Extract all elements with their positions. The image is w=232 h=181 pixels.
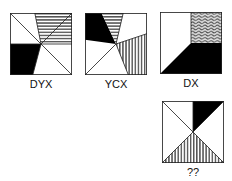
figure-unknown [162,101,224,163]
figure-ycx [85,13,147,75]
figure-label-dx: DX [161,77,221,89]
figure-dyx [10,13,72,75]
figure-dx [160,12,222,74]
figure-label-unknown: ?? [163,166,223,178]
figure-label-ycx: YCX [86,78,146,90]
figure-label-dyx: DYX [11,78,71,90]
